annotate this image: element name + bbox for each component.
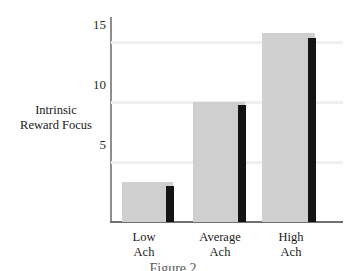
y-tick-label-10: 10 xyxy=(80,78,106,91)
bar-group-high-ach[interactable] xyxy=(262,17,326,222)
y-tick-label-15: 15 xyxy=(80,18,106,31)
x-label-high-ach-line-2: Ach xyxy=(258,245,324,260)
x-axis-label-average-ach: Average Ach xyxy=(184,230,256,259)
x-label-high-ach-line-1: High xyxy=(258,230,324,245)
bar-black-average-ach[interactable] xyxy=(238,105,246,222)
x-label-low-ach-line-2: Ach xyxy=(110,245,178,260)
figure-caption: Figure 2 xyxy=(0,261,346,271)
y-tick-label-5: 5 xyxy=(80,138,106,151)
y-axis-tick-labels: 15 10 5 xyxy=(78,0,106,206)
bar-group-average-ach[interactable] xyxy=(193,17,256,222)
x-label-average-ach-line-2: Ach xyxy=(184,245,256,260)
x-label-average-ach-line-1: Average xyxy=(184,230,256,245)
x-label-low-ach-line-1: Low xyxy=(110,230,178,245)
bar-black-high-ach[interactable] xyxy=(308,38,316,222)
plot-area xyxy=(111,17,343,222)
x-axis-label-high-ach: High Ach xyxy=(258,230,324,259)
figure-container: Intrinsic Reward Focus 15 10 5 Lo xyxy=(0,0,346,271)
x-axis-label-low-ach: Low Ach xyxy=(110,230,178,259)
bar-black-low-ach[interactable] xyxy=(166,186,174,222)
bar-group-low-ach[interactable] xyxy=(122,17,183,222)
